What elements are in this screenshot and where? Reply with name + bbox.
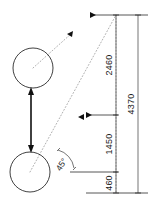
diagonal-arrowheads-group xyxy=(67,31,84,120)
dimension-chain-overall: 4370 xyxy=(126,15,141,193)
stroke-travel-arrow-group xyxy=(28,87,34,153)
dimension-label-2460: 2460 xyxy=(104,55,114,76)
extension-terminators-group xyxy=(86,12,96,118)
top-extension-arrowhead xyxy=(90,12,96,18)
angle-arc-tick-end xyxy=(73,167,76,170)
dimension-label-4370: 4370 xyxy=(126,94,136,115)
drawing-canvas: 45° 2460 1450 xyxy=(0,0,154,203)
technical-drawing-svg: 45° 2460 1450 xyxy=(0,0,154,203)
construction-lines-group xyxy=(30,15,116,193)
dimension-chain-inner: 2460 1450 460 xyxy=(104,15,119,193)
angle-label: 45° xyxy=(54,156,69,172)
diagonal-arrowhead-upper xyxy=(67,31,73,37)
diagonal-arrowhead-middle xyxy=(78,114,84,120)
extension-lines-group xyxy=(70,15,148,193)
dimension-label-1450: 1450 xyxy=(104,134,114,155)
dimension-label-460: 460 xyxy=(104,175,114,191)
middle-extension-arrowhead xyxy=(86,112,92,118)
angle-annotation-group: 45° xyxy=(54,148,76,173)
